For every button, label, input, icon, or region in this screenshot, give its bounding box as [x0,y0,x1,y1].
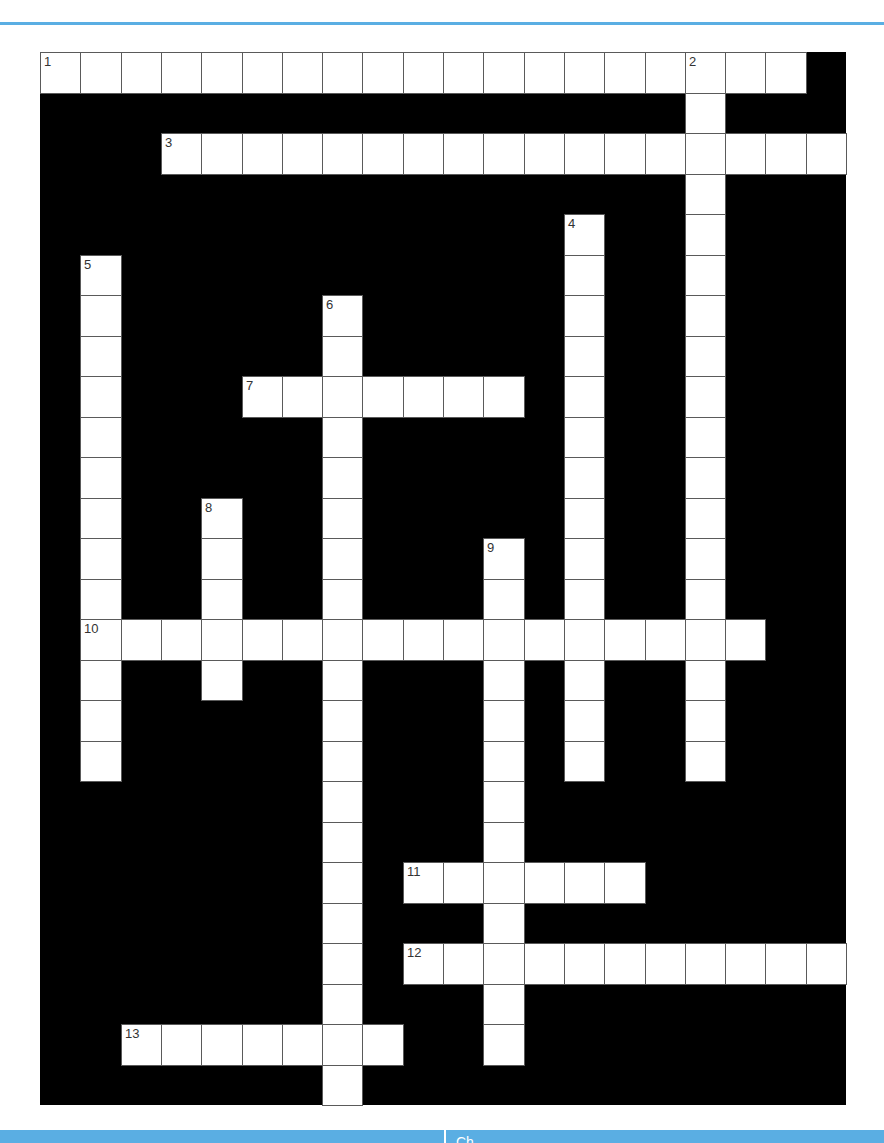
crossword-cell[interactable]: 4 [564,214,605,256]
crossword-cell[interactable] [685,336,726,377]
crossword-cell[interactable] [322,498,363,539]
crossword-cell[interactable] [604,862,646,904]
crossword-cell[interactable] [362,133,404,175]
crossword-cell[interactable]: 6 [322,295,363,337]
crossword-cell[interactable] [403,52,444,94]
crossword-cell[interactable] [685,295,726,337]
crossword-cell[interactable] [524,943,565,985]
crossword-cell[interactable] [685,174,726,215]
crossword-cell[interactable] [685,93,726,134]
crossword-cell[interactable] [80,295,122,337]
crossword-cell[interactable] [604,52,646,94]
crossword-cell[interactable] [564,619,605,661]
crossword-cell[interactable] [564,376,605,418]
crossword-cell[interactable]: 5 [80,255,122,296]
crossword-cell[interactable] [685,943,726,985]
crossword-cell[interactable] [403,133,444,175]
crossword-cell[interactable]: 3 [161,133,202,175]
crossword-cell[interactable] [806,943,847,985]
crossword-cell[interactable] [80,498,122,539]
crossword-cell[interactable] [80,741,122,782]
crossword-cell[interactable]: 7 [242,376,283,418]
crossword-cell[interactable] [483,1024,525,1066]
crossword-cell[interactable] [403,376,444,418]
crossword-cell[interactable] [564,52,605,94]
crossword-cell[interactable] [483,781,525,823]
crossword-cell[interactable] [322,822,363,863]
crossword-cell[interactable]: 11 [403,862,444,904]
crossword-cell[interactable] [524,133,565,175]
crossword-cell[interactable] [322,660,363,701]
crossword-cell[interactable] [322,376,363,418]
crossword-cell[interactable] [322,619,363,661]
crossword-cell[interactable] [564,741,605,782]
crossword-cell[interactable] [604,619,646,661]
crossword-cell[interactable] [201,579,243,620]
crossword-cell[interactable] [443,943,484,985]
crossword-cell[interactable] [725,52,766,94]
crossword-cell[interactable] [201,1024,243,1066]
crossword-cell[interactable] [685,579,726,620]
crossword-cell[interactable] [80,457,122,499]
crossword-cell[interactable] [604,943,646,985]
crossword-cell[interactable] [443,619,484,661]
crossword-cell[interactable] [242,619,283,661]
crossword-cell[interactable]: 9 [483,538,525,580]
crossword-cell[interactable] [564,943,605,985]
crossword-cell[interactable] [362,619,404,661]
crossword-cell[interactable] [80,579,122,620]
crossword-cell[interactable] [483,52,525,94]
crossword-cell[interactable] [564,862,605,904]
crossword-cell[interactable] [725,943,766,985]
crossword-cell[interactable] [322,52,363,94]
crossword-cell[interactable] [725,619,766,661]
crossword-cell[interactable] [282,619,323,661]
crossword-cell[interactable] [685,417,726,458]
crossword-cell[interactable] [765,943,807,985]
crossword-cell[interactable] [685,700,726,742]
crossword-cell[interactable] [201,619,243,661]
crossword-cell[interactable] [242,1024,283,1066]
crossword-cell[interactable] [322,457,363,499]
crossword-cell[interactable] [322,984,363,1025]
crossword-cell[interactable] [443,52,484,94]
crossword-cell[interactable] [765,52,807,94]
crossword-cell[interactable]: 12 [403,943,444,985]
crossword-cell[interactable] [645,52,686,94]
crossword-cell[interactable] [483,984,525,1025]
crossword-cell[interactable] [80,538,122,580]
crossword-cell[interactable] [362,1024,404,1066]
crossword-cell[interactable] [564,660,605,701]
crossword-cell[interactable]: 2 [685,52,726,94]
crossword-cell[interactable] [564,579,605,620]
crossword-cell[interactable] [564,498,605,539]
crossword-cell[interactable] [645,619,686,661]
crossword-cell[interactable] [322,417,363,458]
crossword-cell[interactable] [806,133,847,175]
crossword-cell[interactable] [201,133,243,175]
crossword-cell[interactable] [685,214,726,256]
crossword-cell[interactable] [201,538,243,580]
crossword-cell[interactable] [685,498,726,539]
crossword-cell[interactable] [242,133,283,175]
crossword-cell[interactable] [483,862,525,904]
crossword-cell[interactable] [685,538,726,580]
crossword-cell[interactable] [242,52,283,94]
crossword-cell[interactable] [564,336,605,377]
crossword-cell[interactable] [201,52,243,94]
crossword-cell[interactable] [483,741,525,782]
crossword-cell[interactable] [161,52,202,94]
crossword-cell[interactable] [564,295,605,337]
crossword-cell[interactable] [564,255,605,296]
crossword-cell[interactable] [564,700,605,742]
crossword-cell[interactable] [483,619,525,661]
crossword-cell[interactable] [282,1024,323,1066]
crossword-cell[interactable] [322,781,363,823]
crossword-cell[interactable] [80,417,122,458]
crossword-cell[interactable] [524,862,565,904]
crossword-cell[interactable]: 1 [40,52,81,94]
crossword-cell[interactable] [322,943,363,985]
crossword-cell[interactable] [322,538,363,580]
crossword-cell[interactable] [322,862,363,904]
crossword-cell[interactable] [80,336,122,377]
